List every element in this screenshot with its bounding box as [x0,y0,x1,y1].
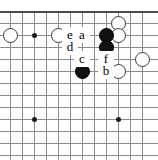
board-edge-top [0,11,158,13]
star-point [32,117,37,122]
grid-line-horizontal [0,83,158,84]
star-point [32,33,37,38]
grid-line-vertical [130,11,131,160]
grid-line-vertical [142,11,143,160]
move-label-b: b [98,63,114,79]
grid-line-vertical [46,11,47,160]
white-stone [3,28,18,43]
star-point [116,117,121,122]
grid-line-horizontal [0,155,158,156]
move-label-c: c [74,51,90,67]
white-stone [135,52,150,67]
go-board-diagram: eadcfb [0,0,158,160]
grid-line-vertical [22,11,23,160]
grid-line-horizontal [0,131,158,132]
grid-line-horizontal [0,143,158,144]
grid-line-horizontal [0,47,158,48]
grid-line-horizontal [0,23,158,24]
grid-line-horizontal [0,107,158,108]
grid-line-vertical [94,11,95,160]
goban: eadcfb [0,0,158,160]
grid-line-horizontal [0,95,158,96]
grid-line-horizontal [0,119,158,120]
